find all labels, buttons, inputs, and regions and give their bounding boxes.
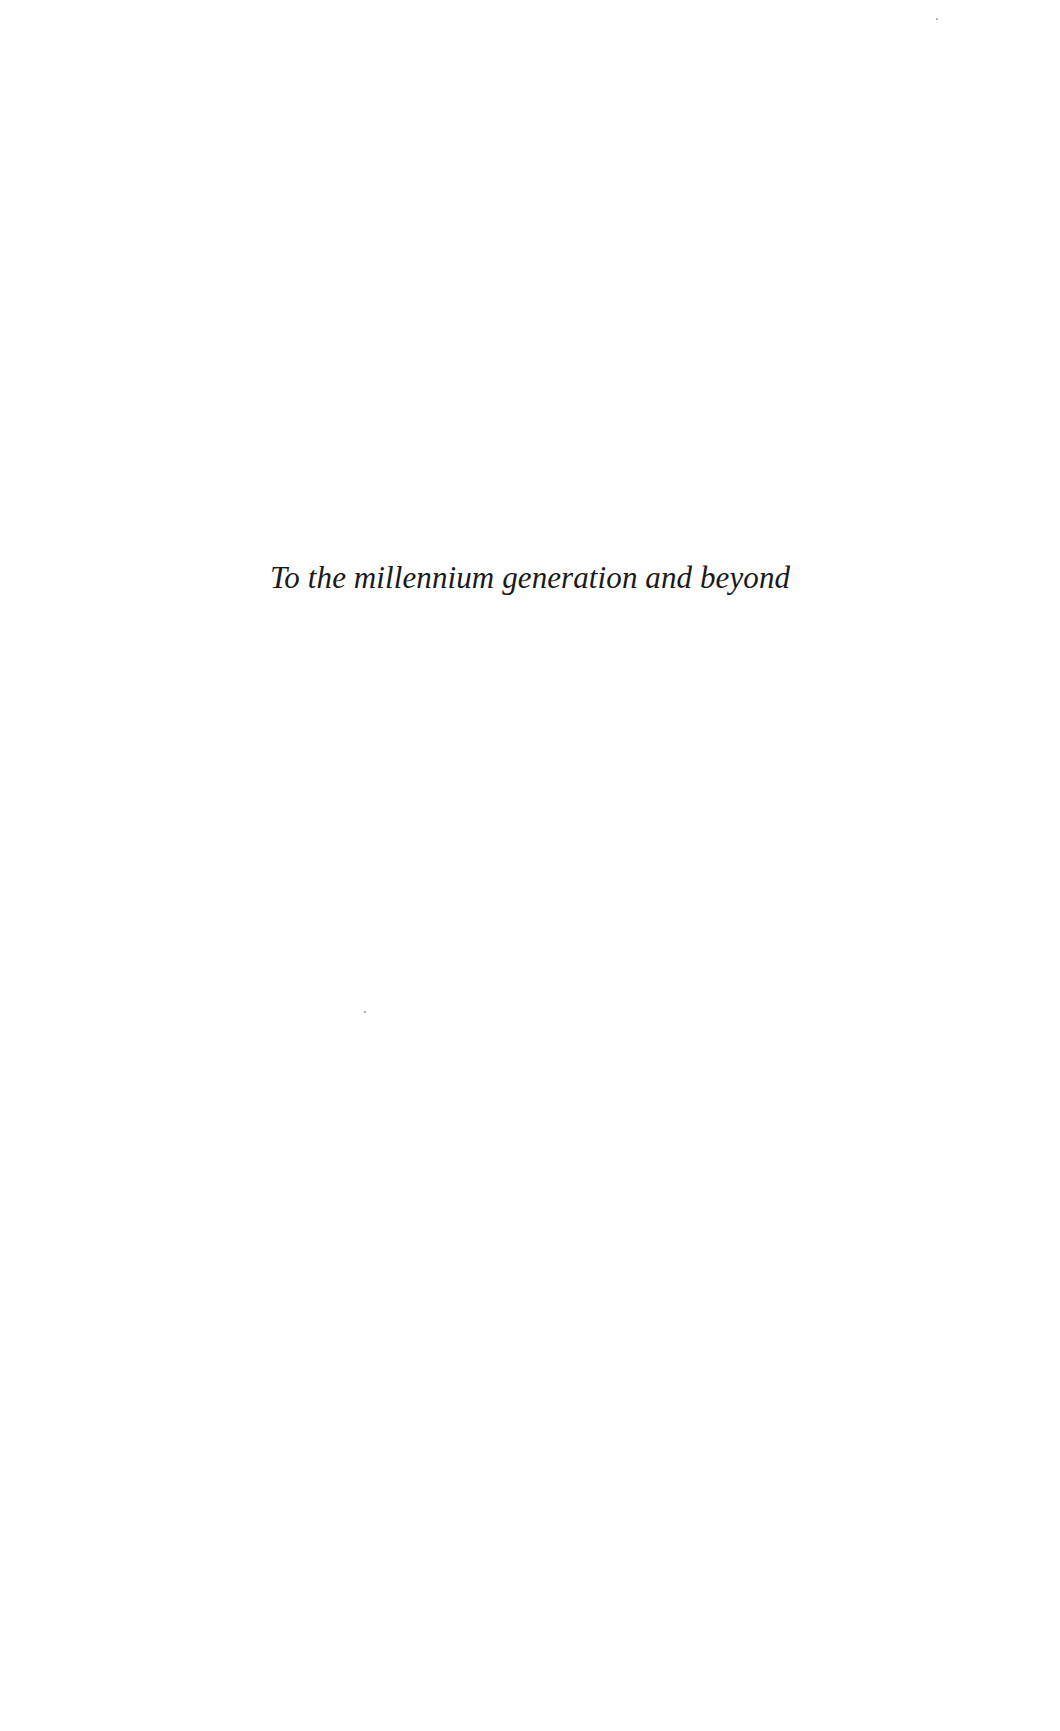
scan-speck (364, 1011, 366, 1013)
book-page: To the millennium generation and beyond (0, 0, 1060, 1731)
scan-speck (936, 18, 938, 20)
dedication-text: To the millennium generation and beyond (0, 558, 1060, 598)
